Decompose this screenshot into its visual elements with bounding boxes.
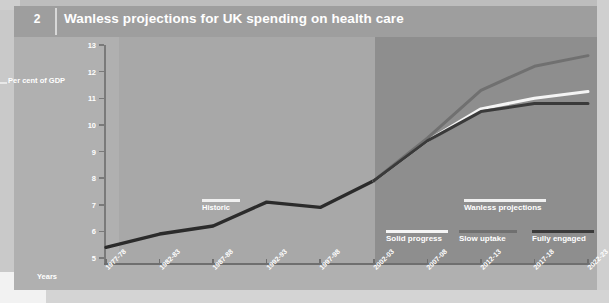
x-axis-title: Years (37, 272, 57, 281)
legend-label-slow-uptake: Slow uptake (459, 234, 506, 243)
y-tick (99, 204, 104, 206)
y-axis-title-dash (0, 82, 7, 84)
y-tick-label: 9 (78, 148, 96, 157)
header-divider (55, 8, 57, 35)
figure-number: 2 (22, 12, 52, 26)
historic-annotation-label: Historic (202, 203, 230, 212)
y-tick-label: 13 (78, 41, 96, 50)
y-tick-label: 12 (78, 68, 96, 77)
historic-annotation-rule (202, 199, 240, 202)
y-tick (99, 151, 104, 153)
paper-bottom-edge (0, 290, 609, 303)
y-tick (99, 124, 104, 126)
figure-root: 2 Wanless projections for UK spending on… (0, 0, 609, 303)
y-tick (99, 177, 104, 179)
wanless-annotation-rule (464, 199, 546, 202)
wanless-annotation-label: Wanless projections (464, 203, 542, 212)
y-tick-label: 5 (78, 254, 96, 263)
y-tick (99, 71, 104, 73)
y-tick-label: 6 (78, 227, 96, 236)
y-tick-label: 11 (78, 94, 96, 103)
y-tick-label: 8 (78, 174, 96, 183)
x-axis-line (104, 263, 594, 265)
y-tick (99, 257, 104, 259)
chart-title: Wanless projections for UK spending on h… (64, 11, 404, 26)
y-tick (99, 98, 104, 100)
y-axis-line (104, 45, 106, 264)
legend-label-fully-engaged: Fully engaged (532, 234, 586, 243)
y-tick-label: 7 (78, 201, 96, 210)
y-axis-title: Per cent of GDP (8, 76, 65, 85)
legend-swatch-slow-uptake (459, 230, 517, 233)
legend-label-solid-progress: Solid progress (386, 234, 442, 243)
y-tick (99, 44, 104, 46)
legend-swatch-solid-progress (386, 230, 448, 233)
y-tick (99, 231, 104, 233)
y-tick-label: 10 (78, 121, 96, 130)
legend-swatch-fully-engaged (532, 230, 594, 233)
